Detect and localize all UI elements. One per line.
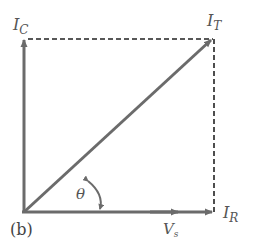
ic-label: IC	[12, 15, 29, 37]
it-vector	[24, 40, 211, 212]
it-label: IT	[206, 11, 222, 33]
theta-label: θ	[76, 185, 85, 203]
phasor-diagram: IC IT IR Vs θ (b)	[0, 0, 255, 247]
theta-arc	[88, 181, 101, 209]
figure-caption: (b)	[10, 220, 33, 239]
ir-label: IR	[222, 203, 238, 225]
vs-label: Vs	[163, 220, 179, 239]
